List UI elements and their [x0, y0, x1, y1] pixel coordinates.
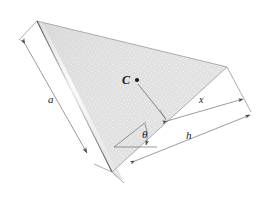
label-theta: θ [142, 128, 148, 140]
dimension-a-extension-top [19, 21, 37, 40]
triangular-plate-diagram: a x h θ C [0, 0, 262, 206]
label-a: a [48, 93, 54, 105]
label-h: h [186, 129, 192, 141]
figure-container: a x h θ C [0, 0, 262, 206]
label-x: x [198, 94, 204, 105]
centroid-dot [135, 78, 139, 82]
dimension-x-extension-right [227, 67, 251, 112]
label-c: C [122, 73, 131, 87]
